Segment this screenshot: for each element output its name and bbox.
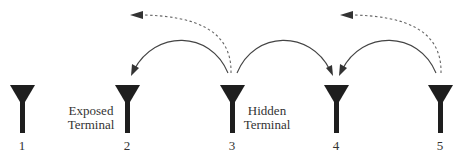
dashed-arc — [352, 15, 441, 73]
antenna-icon — [324, 85, 349, 102]
dashed-arrow-from-3 — [130, 11, 231, 73]
dashed-arrow-from-5 — [340, 11, 441, 73]
solid-arc — [237, 40, 330, 73]
solid-arc — [342, 40, 436, 73]
antenna-node-1: 1 — [10, 85, 35, 153]
antenna-stem — [230, 100, 235, 133]
dashed-arc — [142, 15, 231, 73]
antenna-stem — [438, 100, 443, 133]
node-label-1: 1 — [19, 138, 26, 153]
arrowhead-icon — [131, 64, 139, 76]
hidden-label-line1: Hidden — [248, 103, 287, 118]
antenna-icon — [115, 85, 140, 102]
arrowhead-icon — [130, 11, 143, 19]
hidden-terminal-annotation: Hidden Terminal — [244, 103, 291, 132]
node-label-4: 4 — [333, 138, 340, 153]
antenna-node-5: 5 — [428, 85, 453, 153]
arrowhead-icon — [339, 64, 347, 76]
arrow-3-to-2 — [131, 40, 228, 76]
arrow-5-to-4 — [339, 40, 436, 76]
antenna-icon — [220, 85, 245, 102]
antenna-stem — [125, 100, 130, 133]
antenna-stem — [20, 100, 25, 133]
hidden-label-line2: Terminal — [244, 117, 291, 132]
antenna-node-3: 3 — [220, 85, 245, 153]
node-label-5: 5 — [437, 138, 444, 153]
network-diagram: 1 2 3 4 5 Exposed Terminal Hidden Termin… — [0, 0, 465, 156]
arrow-3-to-4 — [237, 40, 333, 76]
node-label-2: 2 — [124, 138, 131, 153]
exposed-label-line2: Terminal — [68, 117, 115, 132]
antenna-node-4: 4 — [324, 85, 349, 153]
antenna-stem — [334, 100, 339, 133]
exposed-terminal-annotation: Exposed Terminal — [68, 103, 115, 132]
antenna-node-2: 2 — [115, 85, 140, 153]
antenna-icon — [428, 85, 453, 102]
exposed-label-line1: Exposed — [69, 103, 114, 118]
solid-arc — [134, 40, 228, 73]
arrowhead-icon — [340, 11, 353, 19]
antenna-icon — [10, 85, 35, 102]
arrowhead-icon — [326, 65, 333, 76]
node-label-3: 3 — [229, 138, 236, 153]
